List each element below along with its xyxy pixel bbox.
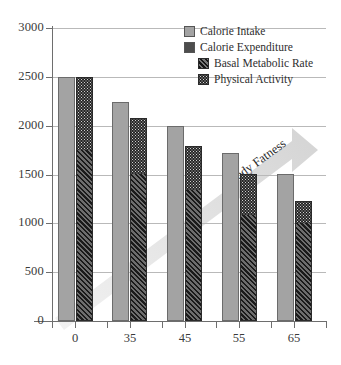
solid-light-gray-swatch [184, 26, 195, 37]
x-tick-label: 65 [274, 331, 314, 346]
x-tick-mark-boundary [326, 321, 327, 328]
legend-item-label: Calorie Expenditure [200, 41, 293, 54]
legend-item-label: Basal Metabolic Rate [214, 57, 313, 70]
bar-segment-physical-activity [185, 146, 202, 190]
bar-calorie-expenditure [295, 201, 312, 321]
x-axis-line [34, 321, 326, 322]
bar-segment-physical-activity [295, 201, 312, 223]
legend-item: Basal Metabolic Rate [184, 56, 334, 71]
y-tick-label: 500 [0, 264, 44, 279]
x-tick-label: 45 [165, 331, 205, 346]
x-tick-mark-boundary [52, 321, 53, 328]
dotted-swatch [198, 74, 209, 85]
x-tick-mark [294, 321, 295, 328]
legend-item: Calorie Intake [184, 24, 334, 39]
bar-calorie-intake [112, 102, 129, 321]
x-tick-label: 35 [110, 331, 150, 346]
x-tick-mark [130, 321, 131, 328]
solid-dark-gray-swatch [184, 42, 195, 53]
legend-item-label: Physical Activity [214, 73, 293, 86]
x-tick-mark [239, 321, 240, 328]
y-tick-label: 2000 [0, 118, 44, 133]
bar-calorie-expenditure [130, 118, 147, 321]
x-tick-mark-boundary [162, 321, 163, 328]
legend-item: Physical Activity [184, 72, 334, 87]
x-tick-label: 0 [55, 331, 95, 346]
y-tick-label: 0 [0, 313, 44, 328]
bar-calorie-expenditure [185, 146, 202, 321]
x-tick-mark-boundary [216, 321, 217, 328]
bar-segment-basal-metabolic-rate [185, 190, 202, 321]
legend-item-label: Calorie Intake [200, 25, 265, 38]
bar-segment-basal-metabolic-rate [295, 223, 312, 321]
bar-segment-basal-metabolic-rate [240, 215, 257, 321]
bar-segment-physical-activity [130, 118, 147, 174]
x-tick-label: 55 [219, 331, 259, 346]
x-tick-mark [185, 321, 186, 328]
x-tick-mark-boundary [271, 321, 272, 328]
y-tick-label: 1000 [0, 215, 44, 230]
bar-calorie-intake [277, 174, 294, 321]
bar-calorie-expenditure [240, 174, 257, 321]
y-tick-label: 1500 [0, 167, 44, 182]
diagonal-hatch-swatch [198, 58, 209, 69]
y-tick-label: 3000 [0, 20, 44, 35]
bar-calorie-expenditure [76, 77, 93, 321]
chart-legend: Calorie IntakeCalorie ExpenditureBasal M… [184, 24, 334, 88]
bar-segment-physical-activity [76, 77, 93, 150]
calorie-balance-bar-chart: Body Fatness 050010001500200025003000 03… [0, 0, 341, 365]
bar-calorie-intake [58, 77, 75, 321]
bar-segment-physical-activity [240, 174, 257, 215]
bar-segment-basal-metabolic-rate [76, 150, 93, 321]
bar-calorie-intake [167, 126, 184, 321]
y-tick-label: 2500 [0, 69, 44, 84]
x-tick-mark [75, 321, 76, 328]
legend-item: Calorie Expenditure [184, 40, 334, 55]
bar-calorie-intake [222, 153, 239, 321]
bar-segment-basal-metabolic-rate [130, 174, 147, 321]
x-tick-mark-boundary [107, 321, 108, 328]
